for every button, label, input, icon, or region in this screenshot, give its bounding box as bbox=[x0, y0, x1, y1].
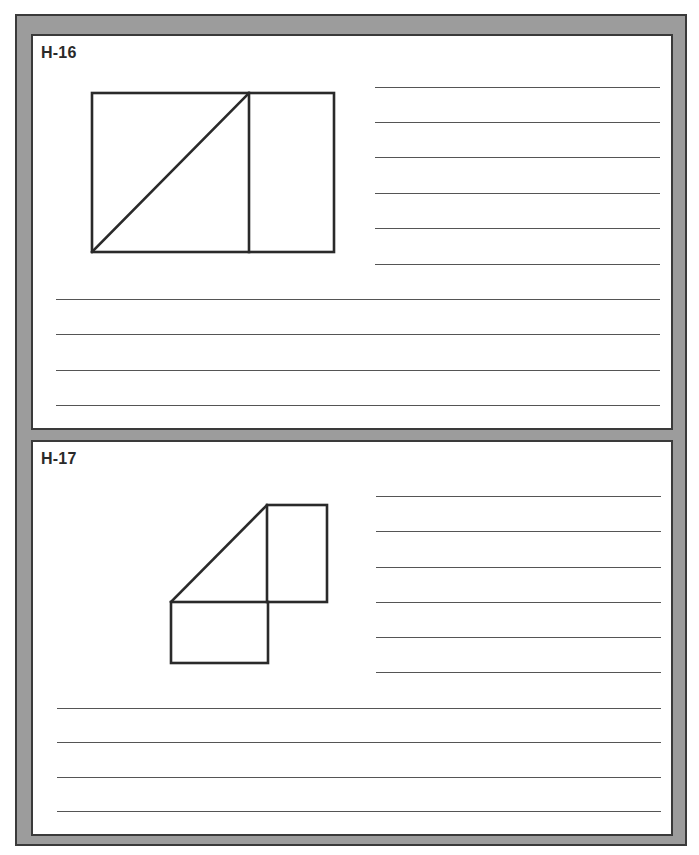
figure-wide-rect bbox=[171, 602, 268, 663]
answer-line[interactable] bbox=[376, 531, 661, 532]
answer-line[interactable] bbox=[376, 672, 661, 673]
answer-line[interactable] bbox=[376, 567, 661, 568]
answer-line[interactable] bbox=[57, 811, 661, 812]
answer-line[interactable] bbox=[376, 637, 661, 638]
answer-line[interactable] bbox=[57, 777, 661, 778]
figure-tall-rect bbox=[267, 505, 327, 602]
answer-line[interactable] bbox=[376, 602, 661, 603]
answer-line[interactable] bbox=[57, 742, 661, 743]
figure-diagonal bbox=[171, 505, 267, 602]
answer-line[interactable] bbox=[57, 708, 661, 709]
figure-h17 bbox=[0, 0, 699, 855]
answer-line[interactable] bbox=[376, 496, 661, 497]
